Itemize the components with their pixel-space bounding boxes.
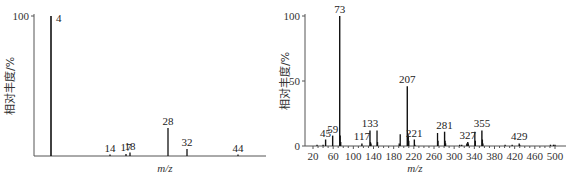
- peak-label: 429: [511, 130, 528, 142]
- right-x-ticks: 2060100140180220260300340380420460500: [308, 146, 564, 162]
- peak-label: 32: [182, 136, 193, 148]
- x-tick-label: 140: [365, 150, 382, 162]
- peak-label: 14: [105, 142, 117, 154]
- x-tick-label: 220: [406, 150, 423, 162]
- peak-label: 117: [354, 130, 371, 142]
- peak-label: 4: [56, 12, 62, 24]
- peak-label: 18: [125, 140, 137, 152]
- right-peaks: 455973117133207221281327355429: [317, 3, 555, 146]
- x-tick-label: 500: [547, 150, 564, 162]
- peak-label: 221: [406, 127, 423, 139]
- x-tick-label: 420: [506, 150, 523, 162]
- x-tick-label: 300: [446, 150, 463, 162]
- y-tick-label: 50: [289, 75, 301, 87]
- x-tick-label: 380: [486, 150, 503, 162]
- peak-label: 73: [334, 3, 346, 15]
- peak-label: 133: [362, 117, 379, 129]
- left-peaks: 4141718283244: [51, 12, 244, 156]
- peak-label: 281: [436, 119, 453, 131]
- peak-label: 28: [163, 115, 175, 127]
- right-x-axis-title: m/z: [407, 162, 423, 174]
- left-mass-spectrum: 100 相对丰度/% m/z 4141718283244: [3, 10, 266, 174]
- left-x-axis-title: m/z: [157, 162, 173, 174]
- x-tick-label: 20: [308, 150, 320, 162]
- peak-label: 327: [460, 129, 477, 141]
- peak-label: 44: [233, 142, 245, 154]
- x-tick-label: 260: [426, 150, 443, 162]
- mass-spectra-figure: 100 相对丰度/% m/z 4141718283244 相对丰度/% m/z …: [0, 0, 566, 178]
- y-tick-label: 100: [284, 10, 301, 22]
- x-tick-label: 60: [328, 150, 340, 162]
- right-mass-spectrum: 相对丰度/% m/z 050100 2060100140180220260300…: [278, 3, 566, 174]
- peak-label: 355: [474, 117, 491, 129]
- x-tick-label: 100: [345, 150, 362, 162]
- x-tick-label: 340: [466, 150, 483, 162]
- peak-label: 207: [399, 73, 416, 85]
- y-tick-label: 0: [295, 140, 301, 152]
- x-tick-label: 180: [385, 150, 402, 162]
- left-ytick-label-100: 100: [13, 10, 30, 22]
- peak-label: 59: [327, 123, 339, 135]
- x-tick-label: 460: [527, 150, 544, 162]
- left-y-axis-title: 相对丰度/%: [3, 57, 17, 115]
